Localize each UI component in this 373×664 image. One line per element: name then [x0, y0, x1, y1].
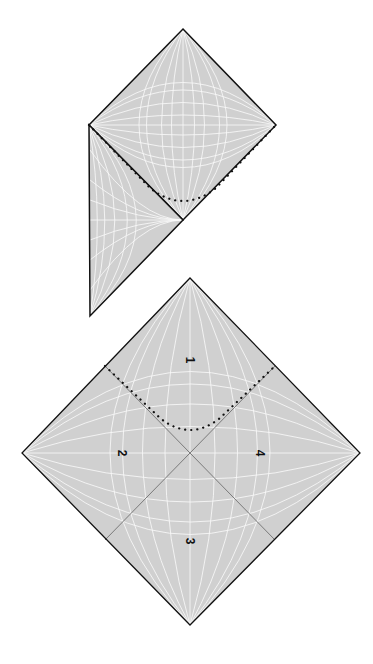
bottom-diamond [22, 278, 360, 625]
penrose-figure: 1 2 3 4 [0, 0, 373, 664]
region-3-label: 3 [183, 538, 197, 545]
region-1-label: 1 [183, 357, 197, 364]
region-4-label: 4 [253, 450, 267, 457]
region-2-label: 2 [115, 450, 129, 457]
